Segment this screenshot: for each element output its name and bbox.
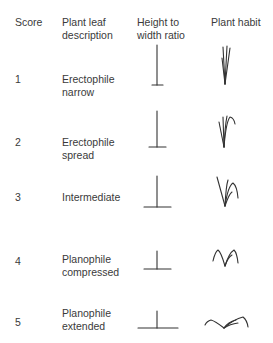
- erect-spread-leaves-icon: [219, 116, 235, 147]
- planophile-extended-leaves-icon: [205, 317, 248, 328]
- intermediate-leaves-icon: [217, 177, 238, 206]
- tall-narrow-t-icon: [152, 45, 163, 85]
- short-widest-t-icon: [138, 311, 178, 328]
- erect-narrow-leaves-icon: [222, 46, 230, 84]
- tall-t-icon: [149, 111, 166, 147]
- short-wide-t-icon: [144, 251, 171, 269]
- medium-t-icon: [144, 176, 171, 207]
- planophile-compressed-leaves-icon: [213, 250, 238, 266]
